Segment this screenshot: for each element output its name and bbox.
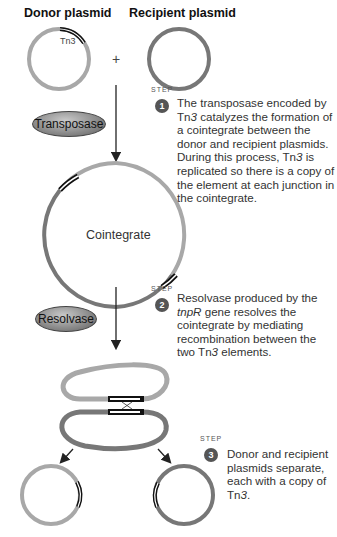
transposase-enzyme: Transposase xyxy=(32,111,106,137)
step-1-text: The transposase encoded by Tn3 catalyzes… xyxy=(177,96,337,205)
step-3-text: Donor and recipient plasmids separate, e… xyxy=(227,447,337,501)
tn3-label: Tn3 xyxy=(60,36,76,46)
recipient-plasmid-title: Recipient plasmid xyxy=(129,6,236,20)
arrow-left-down xyxy=(63,449,73,460)
step-2-number: 2 xyxy=(155,298,169,312)
step-3-word: STEP xyxy=(200,435,222,442)
donor-plasmid xyxy=(29,29,89,89)
donor-plasmid-title: Donor plasmid xyxy=(24,6,112,20)
final-donor-plasmid xyxy=(22,466,80,524)
step-3-badge: STEP 3 xyxy=(200,435,230,465)
recombination-intermediate xyxy=(62,365,167,449)
step-1-number: 1 xyxy=(155,99,169,113)
cointegrate-label: Cointegrate xyxy=(86,228,151,242)
step-1-word: STEP xyxy=(151,86,173,93)
final-recipient-plasmid xyxy=(155,466,213,524)
step-2-text: Resolvase produced by the tnpR gene reso… xyxy=(177,291,332,359)
resolvase-enzyme: Resolvase xyxy=(35,306,97,332)
step-3-number: 3 xyxy=(204,448,218,462)
arrow-right-down xyxy=(158,449,168,460)
recipient-plasmid xyxy=(149,29,209,89)
plus-sign: + xyxy=(112,51,120,67)
step-2-word: STEP xyxy=(151,285,173,292)
